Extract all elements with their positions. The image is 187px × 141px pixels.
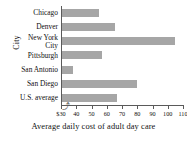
bar: [62, 51, 102, 59]
y-axis-tick-label: New York City: [6, 34, 60, 49]
x-axis-tick-label: 40: [73, 110, 79, 117]
x-axis-tick-label: $30: [56, 110, 65, 117]
bar: [62, 9, 99, 17]
x-axis-tick-label: 100: [163, 110, 172, 117]
x-axis-tick: [183, 105, 184, 109]
bar-row: [62, 20, 183, 34]
x-axis-tick: [122, 105, 123, 109]
bar: [62, 94, 117, 102]
x-axis-tick: [137, 105, 138, 109]
x-axis-tick-label: 110: [178, 110, 187, 117]
bar-row: [62, 63, 183, 77]
bar-chart: City Chicago Denver New York City Pittsb…: [0, 0, 187, 141]
bar: [62, 66, 73, 74]
x-axis-tick: [153, 105, 154, 109]
x-axis-tick-label: 90: [149, 110, 155, 117]
bar: [62, 37, 175, 45]
y-axis-tick-label: Denver: [6, 20, 60, 34]
bar: [62, 23, 115, 31]
x-axis-tick-label: 70: [119, 110, 125, 117]
bar-row: [62, 48, 183, 62]
x-axis-tick: [61, 105, 62, 109]
x-axis-title: Average daily cost of adult day care: [0, 122, 187, 131]
x-axis-tick: [92, 105, 93, 109]
x-axis-tick: [76, 105, 77, 109]
bar-row: [62, 34, 183, 48]
bar-series: [62, 6, 183, 105]
plot-area: [61, 6, 183, 105]
bar: [62, 80, 137, 88]
y-axis-tick-label: San Diego: [6, 77, 60, 91]
y-axis-tick-labels: Chicago Denver New York City Pittsburgh …: [6, 6, 60, 105]
bar-row: [62, 91, 183, 105]
bar-row: [62, 77, 183, 91]
x-axis-tick: [107, 105, 108, 109]
y-axis-tick-label: Pittsburgh: [6, 49, 60, 63]
y-axis-tick-label: U.S. average: [6, 91, 60, 105]
x-axis-tick-label: 60: [104, 110, 110, 117]
bar-row: [62, 6, 183, 20]
x-axis-tick-label: 50: [88, 110, 94, 117]
y-axis-tick-label: Chicago: [6, 6, 60, 20]
x-axis-tick: [168, 105, 169, 109]
y-axis-tick-label: San Antonio: [6, 63, 60, 77]
x-axis-tick-label: 80: [134, 110, 140, 117]
